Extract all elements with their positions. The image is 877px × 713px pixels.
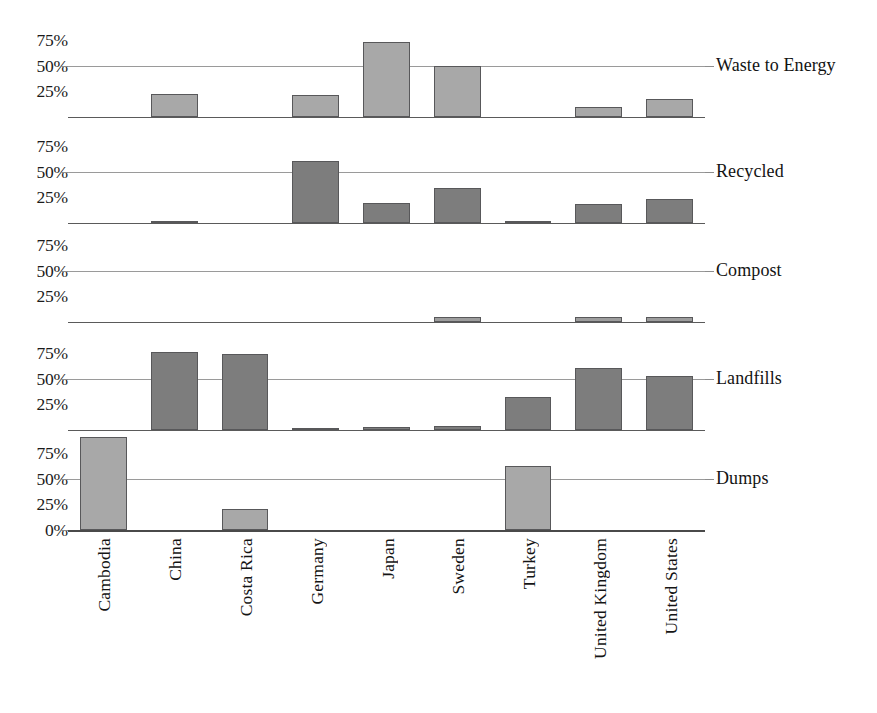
x-axis-tick-labels: CambodiaChinaCosta RicaGermanyJapanSwede…	[68, 534, 705, 694]
y-tick-label: 25%	[0, 494, 68, 515]
panel-label-tick	[705, 66, 714, 67]
y-tick-label: 25%	[0, 187, 68, 208]
y-tick-label: 25%	[0, 81, 68, 102]
y-tick-label: 75%	[0, 135, 68, 156]
bar	[575, 368, 622, 430]
bar	[646, 99, 693, 117]
bar	[151, 221, 198, 224]
x-tick-label-sweden: Sweden	[448, 538, 469, 595]
bar	[505, 466, 552, 530]
y-tick-label: 75%	[0, 442, 68, 463]
panel-baseline	[68, 223, 705, 224]
bar	[646, 376, 693, 430]
x-tick-label-china: China	[165, 538, 186, 581]
bar	[434, 426, 481, 430]
x-tick-label-united-kingdom: United Kingdom	[590, 538, 611, 659]
bar	[151, 94, 198, 117]
bar	[575, 317, 622, 322]
gridline-50	[68, 172, 705, 173]
bar	[575, 204, 622, 223]
y-tick-label: 50%	[0, 55, 68, 76]
y-tick-label: 25%	[0, 394, 68, 415]
bar	[292, 161, 339, 223]
y-tick-label: 0%	[0, 520, 68, 541]
x-tick-label-japan: Japan	[378, 538, 399, 579]
bar	[434, 188, 481, 223]
bar	[434, 317, 481, 322]
bar	[80, 437, 127, 530]
bar	[292, 428, 339, 431]
y-tick-label: 50%	[0, 368, 68, 389]
bar	[151, 352, 198, 430]
panel-label-tick	[705, 379, 714, 380]
bar	[363, 203, 410, 223]
panel-label-recycled: Recycled	[716, 161, 784, 182]
x-tick-label-cambodia: Cambodia	[94, 538, 115, 612]
bar	[505, 221, 552, 224]
panel-baseline	[68, 322, 705, 323]
panel-label-tick	[705, 172, 714, 173]
x-tick-label-costa-rica: Costa Rica	[236, 538, 257, 616]
y-tick-label: 50%	[0, 468, 68, 489]
x-tick-label-united-states: United States	[661, 538, 682, 634]
bar	[575, 107, 622, 117]
y-tick-label: 50%	[0, 161, 68, 182]
x-tick-label-germany: Germany	[307, 538, 328, 605]
bar	[434, 66, 481, 118]
panel-baseline	[68, 117, 705, 118]
bar	[222, 354, 269, 430]
panel-label-dumps: Dumps	[716, 468, 769, 489]
x-tick-label-turkey: Turkey	[519, 538, 540, 589]
gridline-50	[68, 271, 705, 272]
bar	[363, 427, 410, 430]
bar	[646, 317, 693, 322]
y-tick-label: 75%	[0, 234, 68, 255]
panel-label-tick	[705, 271, 714, 272]
y-tick-label: 75%	[0, 342, 68, 363]
bar	[646, 199, 693, 223]
panel-baseline	[68, 430, 705, 431]
bar	[222, 509, 269, 530]
panel-label-compost: Compost	[716, 260, 782, 281]
bar	[292, 95, 339, 117]
gridline-50	[68, 479, 705, 480]
bar	[505, 397, 552, 430]
panel-label-tick	[705, 479, 714, 480]
chart-figure: 75%50%25%Waste to Energy75%50%25%Recycle…	[0, 0, 877, 713]
x-axis-line	[68, 530, 705, 532]
bar	[363, 42, 410, 117]
y-tick-label: 25%	[0, 286, 68, 307]
panel-label-waste-to-energy: Waste to Energy	[716, 55, 836, 76]
y-tick-label: 75%	[0, 29, 68, 50]
panel-label-landfills: Landfills	[716, 368, 782, 389]
y-tick-label: 50%	[0, 260, 68, 281]
